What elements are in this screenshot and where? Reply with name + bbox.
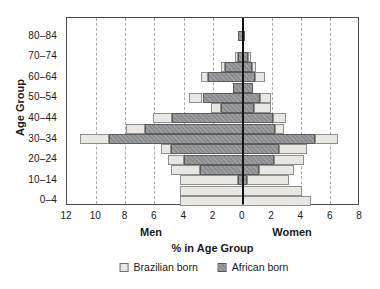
- grid-line: [154, 18, 155, 204]
- bar-men-african-40–44: [172, 113, 242, 123]
- bar-women-brazilian-70–74: [248, 52, 251, 62]
- legend-item-brazilian-born: Brazilian born: [120, 262, 198, 273]
- bar-women-brazilian-50–54: [260, 93, 271, 103]
- bar-men-african-65–69: [225, 62, 243, 72]
- bar-women-brazilian-40–44: [273, 113, 286, 123]
- grid-line: [301, 18, 302, 204]
- bar-men-brazilian-50–54: [189, 93, 202, 103]
- x-tick-label: 0: [230, 210, 254, 221]
- bar-men-brazilian-65–69: [221, 62, 225, 72]
- age-tick-label: 70–74: [0, 50, 57, 61]
- bar-men-african-60–64: [208, 72, 242, 82]
- african-born-swatch-icon: [218, 263, 227, 272]
- bar-men-african-45–49: [221, 103, 243, 113]
- bar-women-brazilian-25–29: [279, 144, 307, 154]
- bar-men-african-15–19: [200, 165, 242, 175]
- bar-men-brazilian-20–24: [168, 155, 184, 165]
- bar-men-african-35–39: [145, 124, 243, 134]
- legend-label: African born: [232, 262, 289, 273]
- bar-women-african-25–29: [243, 144, 280, 154]
- bar-women-african-40–44: [243, 113, 273, 123]
- bar-men-brazilian-30–34: [80, 134, 109, 144]
- bar-men-brazilian-25–29: [161, 144, 171, 154]
- x-tick-label: 10: [83, 210, 107, 221]
- x-tick-label: 4: [288, 210, 312, 221]
- x-axis-title: % in Age Group: [132, 242, 293, 254]
- y-axis-title: Age Group: [14, 62, 27, 154]
- bar-women-brazilian-35–39: [275, 124, 284, 134]
- bar-men-brazilian-10–14: [180, 175, 238, 185]
- bar-men-brazilian-60–64: [201, 72, 208, 82]
- bar-women-brazilian-60–64: [255, 72, 265, 82]
- bar-women-african-15–19: [243, 165, 259, 175]
- bar-women-brazilian-0–4: [243, 196, 311, 206]
- bar-women-brazilian-30–34: [315, 134, 338, 144]
- bar-women-brazilian-20–24: [274, 155, 304, 165]
- bar-men-brazilian-35–39: [126, 124, 145, 134]
- bar-women-african-50–54: [243, 93, 261, 103]
- bar-women-african-20–24: [243, 155, 274, 165]
- age-tick-label: 30–34: [0, 133, 57, 144]
- bar-women-african-35–39: [243, 124, 275, 134]
- bar-men-brazilian-70–74: [235, 52, 238, 62]
- grid-line: [96, 18, 97, 204]
- age-tick-label: 40–44: [0, 112, 57, 123]
- bar-women-african-45–49: [243, 103, 254, 113]
- x-tick-label: 8: [113, 210, 137, 221]
- bar-women-african-60–64: [243, 72, 255, 82]
- bar-men-brazilian-5–9: [180, 186, 243, 196]
- age-tick-label: 80–84: [0, 30, 57, 41]
- bar-women-brazilian-15–19: [259, 165, 294, 175]
- bar-women-brazilian-10–14: [247, 175, 289, 185]
- bar-men-brazilian-15–19: [171, 165, 200, 175]
- bar-women-african-65–69: [243, 62, 252, 72]
- bar-women-brazilian-45–49: [254, 103, 272, 113]
- age-tick-label: 50–54: [0, 91, 57, 102]
- bar-women-african-30–34: [243, 134, 315, 144]
- bar-women-brazilian-5–9: [243, 186, 302, 196]
- bar-men-brazilian-45–49: [211, 103, 221, 113]
- age-tick-label: 20–24: [0, 153, 57, 164]
- legend: Brazilian born African born: [120, 262, 289, 273]
- x-tick-label: 8: [347, 210, 371, 221]
- age-tick-label: 10–14: [0, 174, 57, 185]
- x-tick-label: 2: [201, 210, 225, 221]
- bar-men-african-50–54: [203, 93, 243, 103]
- grid-line: [125, 18, 126, 204]
- plot-area: [66, 17, 359, 205]
- x-tick-label: 6: [318, 210, 342, 221]
- bar-men-brazilian-40–44: [153, 113, 172, 123]
- age-tick-label: 0–4: [0, 194, 57, 205]
- population-pyramid-figure: 80–8470–7460–6450–5440–4430–3420–2410–14…: [0, 0, 380, 289]
- x-tick-label: 12: [54, 210, 78, 221]
- bar-women-brazilian-65–69: [252, 62, 256, 72]
- legend-item-african-born: African born: [218, 262, 289, 273]
- women-axis-label: Women: [257, 226, 327, 238]
- brazilian-born-swatch-icon: [120, 263, 129, 272]
- legend-label: Brazilian born: [134, 262, 198, 273]
- zero-axis-line: [242, 18, 244, 204]
- x-tick-label: 4: [171, 210, 195, 221]
- men-axis-label: Men: [116, 226, 186, 238]
- x-tick-label: 6: [142, 210, 166, 221]
- bar-men-african-30–34: [109, 134, 242, 144]
- bar-men-african-20–24: [184, 155, 243, 165]
- age-tick-label: 60–64: [0, 71, 57, 82]
- grid-line: [330, 18, 331, 204]
- bar-men-brazilian-0–4: [180, 196, 243, 206]
- bar-women-african-55–59: [243, 83, 253, 93]
- bar-men-african-25–29: [171, 144, 243, 154]
- x-tick-label: 2: [259, 210, 283, 221]
